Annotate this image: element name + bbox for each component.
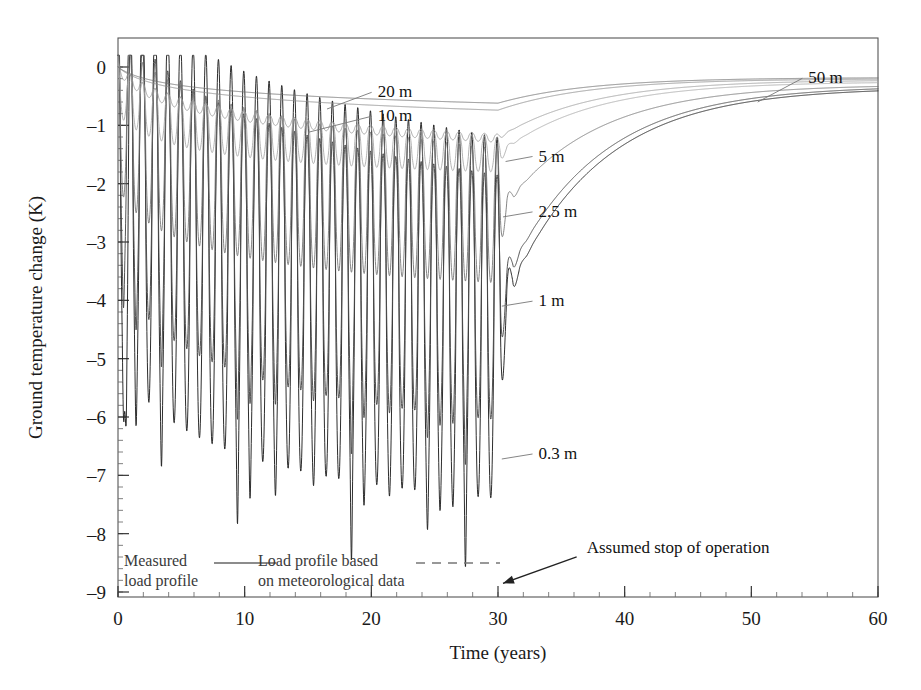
y-axis-title: Ground temperature change (K) — [25, 196, 47, 439]
y-tick-label: –6 — [86, 407, 106, 428]
series-label-2-5-m: 2.5 m — [539, 202, 578, 221]
legend-meteo-line1: Load profile based — [258, 552, 378, 570]
series-label-5-m: 5 m — [539, 147, 565, 166]
series-label-20-m: 20 m — [378, 82, 412, 101]
x-tick-label: 60 — [869, 608, 888, 629]
x-tick-label: 10 — [235, 608, 254, 629]
legend-measured-line2: load profile — [124, 572, 198, 590]
y-tick-label: –4 — [86, 290, 107, 311]
x-tick-label: 50 — [742, 608, 761, 629]
x-tick-label: 0 — [113, 608, 123, 629]
y-tick-label: –3 — [86, 232, 106, 253]
ground-temperature-chart: 0–1–2–3–4–5–6–7–8–90102030405060Time (ye… — [0, 0, 921, 690]
x-axis-title: Time (years) — [450, 642, 547, 664]
y-tick-label: –5 — [86, 349, 106, 370]
y-tick-label: –7 — [86, 465, 106, 486]
legend-measured-line1: Measured — [124, 552, 187, 569]
x-tick-label: 30 — [489, 608, 508, 629]
y-tick-label: 0 — [97, 57, 107, 78]
series-label-50-m: 50 m — [808, 68, 842, 87]
y-tick-label: –1 — [86, 115, 106, 136]
y-tick-label: –8 — [86, 524, 106, 545]
y-tick-label: –9 — [86, 582, 106, 603]
series-label-0-3-m: 0.3 m — [539, 444, 578, 463]
y-tick-label: –2 — [86, 174, 106, 195]
chart-figure: 0–1–2–3–4–5–6–7–8–90102030405060Time (ye… — [0, 0, 921, 690]
legend-meteo-line2: on meteorological data — [258, 572, 405, 590]
x-tick-label: 20 — [362, 608, 381, 629]
series-label-10-m: 10 m — [378, 106, 412, 125]
x-tick-label: 40 — [615, 608, 634, 629]
series-label-1-m: 1 m — [539, 291, 565, 310]
annotation-text-assumed-stop-of-operation: Assumed stop of operation — [587, 538, 770, 557]
